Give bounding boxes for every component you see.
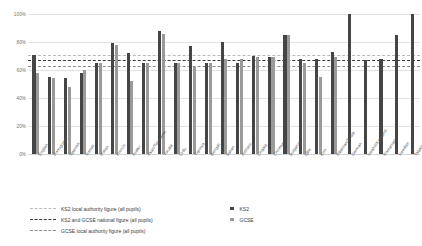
- legend-label: GCSE local authority figure (all pupils): [61, 228, 145, 234]
- legend-dashed-line-icon: [30, 230, 56, 231]
- y-axis-tick-label: 40%: [17, 96, 27, 101]
- bar-ks2: [236, 63, 239, 154]
- legend-dashed-line-icon: [30, 208, 56, 209]
- y-axis-tick-label: 20%: [17, 124, 27, 129]
- y-axis-labels: 0%20%40%60%80%100%: [0, 0, 28, 160]
- bar-group: [279, 0, 295, 154]
- bar-gcse: [256, 57, 259, 154]
- legend-dashed-line-icon: [30, 219, 56, 220]
- y-axis-tick-label: 80%: [17, 40, 27, 45]
- bar-group: [44, 0, 60, 154]
- bar-gcse: [224, 59, 227, 154]
- legend-label: KS2 and GCSE national figure (all pupils…: [61, 217, 153, 223]
- bar-gcse: [334, 57, 337, 154]
- legend-item-series: KS2: [228, 203, 254, 214]
- bar-gcse: [130, 81, 133, 154]
- y-axis-tick-label: 60%: [17, 68, 27, 73]
- bar-group: [28, 0, 44, 154]
- bar-ks2: [80, 73, 83, 154]
- bar-ks2: [268, 57, 271, 154]
- bar-ks2: [111, 43, 114, 154]
- bar-gcse: [99, 63, 102, 154]
- bar-group: [263, 0, 279, 154]
- legend-label: KS2 local authority figure (all pupils): [61, 206, 141, 212]
- plot-area: 0%20%40%60%80%100% EnglishPortugueseSpan…: [0, 0, 422, 160]
- bar-ks2: [95, 63, 98, 154]
- bar-group: [106, 0, 122, 154]
- legend-swatch-icon: [230, 207, 234, 211]
- legend-item-reference: KS2 and GCSE national figure (all pupils…: [30, 214, 153, 225]
- bar-group: [216, 0, 232, 154]
- bar-group: [138, 0, 154, 154]
- bar-gcse: [146, 63, 149, 154]
- bar-ks2: [364, 60, 367, 154]
- bar-ks2: [221, 42, 224, 154]
- bar-group: [310, 0, 326, 154]
- bar-group: [185, 0, 201, 154]
- legend-swatch-icon: [230, 218, 234, 222]
- bar-ks2: [395, 35, 398, 154]
- bar-ks2: [315, 59, 318, 154]
- bar-gcse: [83, 70, 86, 154]
- y-axis-tick-label: 100%: [14, 12, 26, 17]
- bar-group: [59, 0, 75, 154]
- bar-group: [232, 0, 248, 154]
- legend-item-reference: GCSE local authority figure (all pupils): [30, 225, 153, 236]
- bar-gcse: [287, 35, 290, 154]
- bar-ks2: [174, 63, 177, 154]
- bar-ks2: [411, 14, 414, 154]
- bar-ks2: [32, 55, 35, 154]
- bar-gcse: [36, 73, 39, 154]
- legend-item-series: GCSE: [228, 214, 254, 225]
- bar-group: [295, 0, 311, 154]
- chart-legend: KS2 local authority figure (all pupils)K…: [0, 200, 422, 246]
- bar-ks2: [189, 46, 192, 154]
- bar-group: [405, 0, 421, 154]
- y-axis-tick-label: 0%: [19, 152, 26, 157]
- bar-group: [357, 0, 373, 154]
- legend-item-reference: KS2 local authority figure (all pupils): [30, 203, 153, 214]
- bar-group: [91, 0, 107, 154]
- bar-ks2: [142, 63, 145, 154]
- bar-gcse: [177, 63, 180, 154]
- bar-gcse: [193, 67, 196, 154]
- bar-gcse: [271, 57, 274, 154]
- bar-ks2: [205, 63, 208, 154]
- bar-group: [201, 0, 217, 154]
- bar-ks2: [48, 77, 51, 154]
- bar-ks2: [127, 53, 130, 154]
- bar-ks2: [252, 56, 255, 154]
- x-axis-labels: EnglishPortugueseSpanishSomaliPolishFren…: [28, 154, 420, 206]
- legend-reference-lines: KS2 local authority figure (all pupils)K…: [30, 203, 153, 236]
- bar-gcse: [115, 45, 118, 154]
- bar-ks2: [283, 35, 286, 154]
- bar-gcse: [303, 63, 306, 154]
- bar-group: [326, 0, 342, 154]
- bar-gcse: [68, 87, 71, 154]
- legend-series: KS2GCSE: [228, 203, 254, 225]
- bar-groups: [28, 0, 420, 154]
- legend-label: GCSE: [240, 217, 254, 223]
- bar-gcse: [240, 59, 243, 154]
- bar-group: [122, 0, 138, 154]
- chart-root: 0%20%40%60%80%100% EnglishPortugueseSpan…: [0, 0, 422, 246]
- legend-label: KS2: [240, 206, 249, 212]
- bar-gcse: [319, 77, 322, 154]
- bar-gcse: [52, 78, 55, 154]
- bar-group: [75, 0, 91, 154]
- bar-group: [169, 0, 185, 154]
- bar-gcse: [209, 63, 212, 154]
- bar-ks2: [331, 52, 334, 154]
- bar-group: [389, 0, 405, 154]
- bar-group: [248, 0, 264, 154]
